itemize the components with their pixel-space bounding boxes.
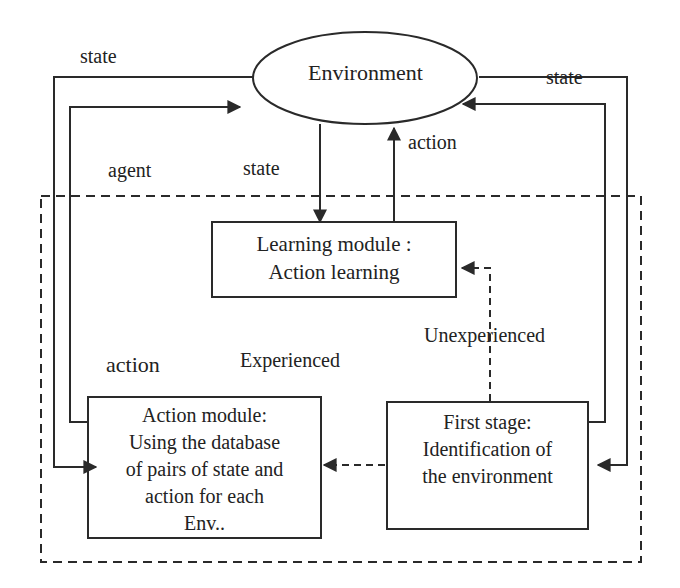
label-state-center: state — [243, 158, 280, 178]
action-module-line-4: action for each — [145, 483, 264, 510]
action-line-right-inner — [463, 104, 605, 422]
environment-node: Environment — [308, 62, 423, 84]
label-experienced: Experienced — [240, 350, 340, 370]
action-module-line-5: Env.. — [184, 510, 225, 537]
label-action-center: action — [408, 132, 457, 152]
learning-module-subtitle: Action learning — [268, 258, 399, 286]
action-module-line-1: Action module: — [142, 402, 267, 429]
first-stage-line-1: First stage: — [443, 409, 531, 436]
first-stage-line-3: the environment — [422, 463, 553, 490]
learning-module-box: Learning module : Action learning — [211, 221, 457, 298]
action-module-line-3: of pairs of state and — [126, 456, 284, 483]
action-module-box: Action module: Using the database of pai… — [87, 396, 322, 539]
first-stage-line-2: Identification of — [423, 436, 552, 463]
environment-label: Environment — [308, 60, 423, 85]
label-unexperienced: Unexperienced — [424, 325, 545, 345]
label-state-top-left: state — [80, 46, 117, 66]
action-module-line-2: Using the database — [129, 429, 280, 456]
first-stage-box: First stage: Identification of the envir… — [386, 401, 589, 530]
label-state-top-right: state — [546, 67, 583, 87]
learning-module-title: Learning module : — [256, 230, 411, 258]
label-agent: agent — [108, 160, 151, 180]
label-action-left: action — [106, 354, 160, 376]
